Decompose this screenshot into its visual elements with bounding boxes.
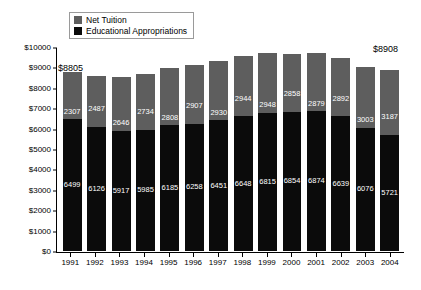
bar-column[interactable]: 28586854 [281,48,303,251]
bar-segment-net-tuition[interactable]: 2646 [112,77,131,131]
bar-stack: 27345985 [136,74,155,251]
bar-stack: 26465917 [112,77,131,251]
x-axis-tick: 1992 [84,253,106,277]
bar-segment-educational-appropriations[interactable]: 6258 [185,124,204,251]
bar-segment-net-tuition[interactable]: 2930 [209,61,228,120]
bar-segment-educational-appropriations[interactable]: 6499 [63,119,82,251]
bar-value-net-tuition: 3187 [381,113,398,121]
bar-column[interactable]: 23076499 [61,48,83,251]
bar-segment-net-tuition[interactable]: 2948 [258,53,277,113]
bar-stack: 30036076 [356,67,375,251]
x-axis-tick-label: 1999 [258,259,276,267]
bar-stack: 28586854 [283,54,302,251]
bar-segment-net-tuition[interactable]: 2307 [63,72,82,119]
bar-value-educational-appropriations: 6451 [210,182,227,190]
y-axis-tick-mark [53,211,57,212]
x-axis-tick-mark [267,253,268,257]
bar-segment-educational-appropriations[interactable]: 6451 [209,120,228,251]
bar-column[interactable]: 29076258 [183,48,205,251]
bar-segment-net-tuition[interactable]: 2879 [307,53,326,111]
bar-segment-educational-appropriations[interactable]: 5917 [112,131,131,251]
bar-group: 2307649924876126264659172734598528086185… [58,48,404,251]
bar-value-net-tuition: 2948 [259,101,276,109]
bar-column[interactable]: 29446648 [232,48,254,251]
bar-segment-educational-appropriations[interactable]: 6874 [307,111,326,251]
bar-value-educational-appropriations: 5721 [381,189,398,197]
bar-column[interactable]: 27345985 [134,48,156,251]
x-axis-tick-mark [242,253,243,257]
bar-value-educational-appropriations: 6639 [333,180,350,188]
bar-stack: 28086185 [160,68,179,251]
bar-segment-educational-appropriations[interactable]: 6639 [331,116,350,251]
bar-value-net-tuition: 2808 [162,114,179,122]
bar-column[interactable]: 28086185 [159,48,181,251]
bar-segment-net-tuition[interactable]: 2734 [136,74,155,129]
x-axis-tick-mark [218,253,219,257]
bar-stack: 28926639 [331,58,350,251]
bar-value-net-tuition: 2907 [186,102,203,110]
bar-value-net-tuition: 2930 [210,109,227,117]
x-axis-tick: 1995 [158,253,180,277]
bar-segment-educational-appropriations[interactable]: 6854 [283,112,302,251]
bar-segment-educational-appropriations[interactable]: 6126 [87,127,106,251]
bar-column[interactable]: 29306451 [208,48,230,251]
x-axis: 1991199219931994199519961997199819992000… [56,253,404,277]
chart-legend: Net Tuition Educational Appropriations [69,12,194,39]
x-axis-tick-label: 1993 [111,259,129,267]
bar-segment-net-tuition[interactable]: 3187 [380,70,399,135]
bar-stack: 29486815 [258,53,277,251]
bar-value-net-tuition: 2487 [88,105,105,113]
x-axis-tick-label: 1994 [135,259,153,267]
bar-segment-net-tuition[interactable]: 2892 [331,58,350,117]
bar-segment-net-tuition[interactable]: 2808 [160,68,179,125]
bar-value-net-tuition: 2307 [64,108,81,116]
legend-label-educational-appropriations: Educational Appropriations [86,27,187,36]
bar-value-net-tuition: 2858 [284,90,301,98]
x-axis-tick: 2001 [305,253,327,277]
bar-column[interactable]: 26465917 [110,48,132,251]
x-axis-tick-mark [341,253,342,257]
x-axis-tick-mark [365,253,366,257]
bar-value-educational-appropriations: 6815 [259,178,276,186]
bar-segment-net-tuition[interactable]: 2858 [283,54,302,112]
bar-segment-educational-appropriations[interactable]: 6815 [258,113,277,251]
bar-value-educational-appropriations: 5917 [113,187,130,195]
bar-value-net-tuition: 2892 [333,95,350,103]
bar-value-educational-appropriations: 6076 [357,186,374,194]
x-axis-tick: 1996 [182,253,204,277]
x-axis-tick: 2004 [379,253,401,277]
x-axis-tick-mark [144,253,145,257]
bar-value-net-tuition: 2944 [235,95,252,103]
x-axis-tick-label: 1995 [160,259,178,267]
x-axis-tick: 1999 [256,253,278,277]
x-axis-tick: 2002 [330,253,352,277]
legend-swatch-net-tuition [74,16,82,24]
bar-column[interactable]: 29486815 [257,48,279,251]
bar-segment-educational-appropriations[interactable]: 5985 [136,130,155,251]
bar-segment-educational-appropriations[interactable]: 5721 [380,135,399,251]
bar-column[interactable]: 30036076 [354,48,376,251]
bar-segment-educational-appropriations[interactable]: 6648 [234,116,253,251]
bar-stack: 29306451 [209,61,228,251]
x-axis-tick: 1994 [133,253,155,277]
bar-value-educational-appropriations: 6874 [308,177,325,185]
bar-segment-net-tuition[interactable]: 3003 [356,67,375,128]
bar-segment-net-tuition[interactable]: 2487 [87,76,106,126]
legend-swatch-educational-appropriations [74,27,82,35]
x-axis-tick-mark [390,253,391,257]
legend-item-educational-appropriations: Educational Appropriations [74,27,187,36]
bar-segment-educational-appropriations[interactable]: 6185 [160,125,179,251]
bar-column[interactable]: 28926639 [330,48,352,251]
y-axis-tick-mark [53,129,57,130]
x-axis-tick-mark [119,253,120,257]
bar-column[interactable]: 24876126 [86,48,108,251]
bar-column[interactable]: 31875721 [379,48,401,251]
bar-column[interactable]: 28796874 [305,48,327,251]
bar-segment-educational-appropriations[interactable]: 6076 [356,128,375,251]
legend-label-net-tuition: Net Tuition [86,16,127,25]
bar-segment-net-tuition[interactable]: 2907 [185,65,204,124]
x-axis-tick-label: 1998 [233,259,251,267]
bar-value-educational-appropriations: 6185 [162,184,179,192]
bar-segment-net-tuition[interactable]: 2944 [234,56,253,116]
bar-stack: 23076499 [63,72,82,251]
